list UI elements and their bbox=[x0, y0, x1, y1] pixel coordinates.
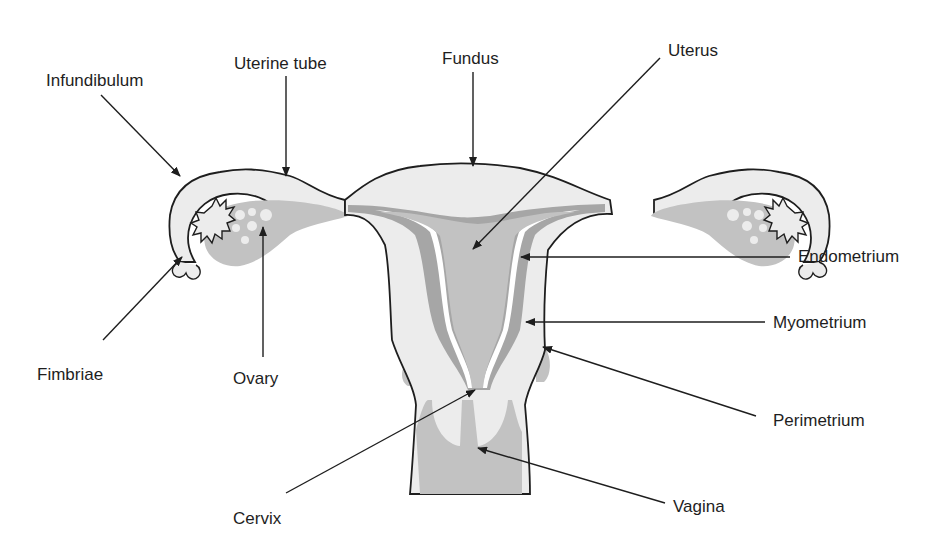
label-infundibulum: Infundibulum bbox=[46, 72, 143, 89]
arrow-infundibulum bbox=[101, 95, 180, 176]
label-endometrium: Endometrium bbox=[798, 248, 899, 265]
arrow-perimetrium bbox=[543, 347, 756, 416]
label-fundus: Fundus bbox=[442, 50, 499, 67]
label-vagina: Vagina bbox=[673, 498, 725, 515]
label-myometrium: Myometrium bbox=[773, 314, 867, 331]
label-uterus: Uterus bbox=[668, 42, 718, 59]
left-uterine-tube bbox=[169, 169, 348, 279]
label-uterine-tube: Uterine tube bbox=[234, 55, 327, 72]
label-perimetrium: Perimetrium bbox=[773, 412, 865, 429]
arrow-fimbriae bbox=[103, 257, 182, 340]
label-fimbriae: Fimbriae bbox=[37, 366, 103, 383]
label-cervix: Cervix bbox=[233, 510, 281, 527]
label-ovary: Ovary bbox=[233, 370, 278, 387]
